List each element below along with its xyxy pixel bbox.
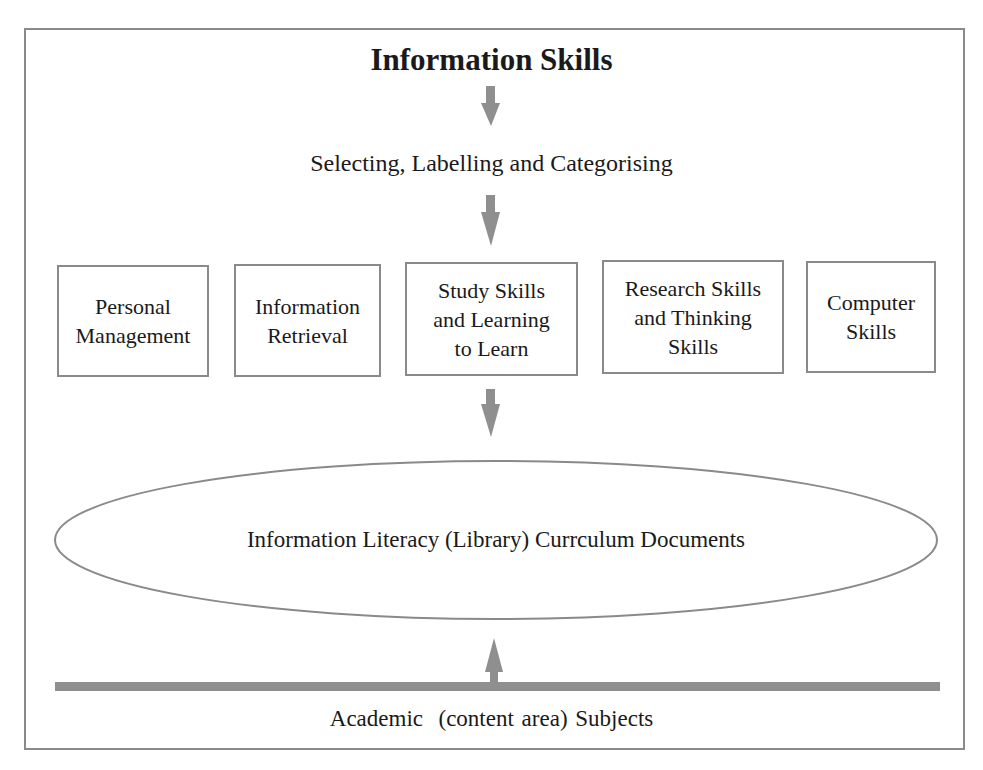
category-box-personal-management: Personal Management bbox=[57, 265, 209, 377]
category-box-computer-skills: Computer Skills bbox=[806, 261, 936, 373]
arrow-down-icon bbox=[481, 389, 500, 437]
foundation-bar bbox=[55, 682, 940, 691]
process-step-label: Selecting, Labelling and Categorising bbox=[0, 150, 983, 177]
arrow-up-icon bbox=[485, 638, 503, 685]
category-box-research-skills: Research Skills and Thinking Skills bbox=[602, 260, 784, 374]
arrow-down-icon bbox=[481, 195, 500, 246]
category-box-information-retrieval: Information Retrieval bbox=[234, 264, 381, 377]
category-box-study-skills: Study Skills and Learning to Learn bbox=[405, 262, 578, 376]
diagram-graphics bbox=[0, 0, 983, 770]
arrow-down-icon bbox=[481, 86, 500, 126]
outcome-label: Information Literacy (Library) Currculum… bbox=[55, 460, 937, 620]
foundation-label: Academic (content area) Subjects bbox=[0, 706, 983, 732]
